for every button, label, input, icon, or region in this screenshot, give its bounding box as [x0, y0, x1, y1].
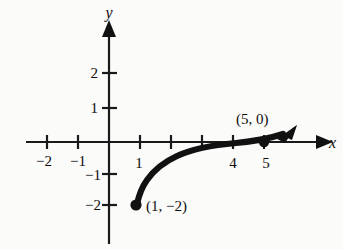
y-tick-label-1: 1: [91, 101, 99, 116]
endpoint-dot-1-neg2: [130, 199, 141, 210]
y-tick-label-neg2: −2: [85, 198, 101, 213]
x-tick-label-5: 5: [262, 156, 270, 171]
x-axis-label: x: [329, 135, 336, 151]
point-label-intercept: (5, 0): [236, 112, 269, 127]
point-label-start: (1, −2): [146, 199, 187, 214]
graph-figure: y x −2 −1 1 4 5 2 1 −1 −2 (1, −2) (5, 0): [0, 0, 343, 249]
y-tick-label-2: 2: [91, 66, 99, 81]
y-tick-label-neg1: −1: [85, 168, 101, 183]
y-axis-arrowhead: [102, 20, 116, 37]
x-tick-label-1: 1: [135, 156, 143, 171]
x-tick-label-4: 4: [229, 156, 237, 171]
x-tick-label-neg2: −2: [36, 154, 52, 169]
intercept-dot-5-0: [259, 137, 269, 147]
y-axis-label: y: [105, 5, 112, 21]
x-tick-label-neg1: −1: [70, 154, 86, 169]
